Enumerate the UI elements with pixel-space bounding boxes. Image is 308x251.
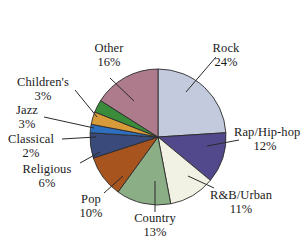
slice-label-religious-name: Religious bbox=[15, 163, 79, 177]
slice-label-religious-percent: 6% bbox=[15, 177, 79, 191]
slice-label-childrens-name: Children's bbox=[12, 76, 74, 90]
slice-label-rap-hip-hop-name: Rap/Hip-hop bbox=[234, 126, 308, 140]
leader-line-childrens bbox=[75, 90, 97, 117]
slice-label-other: Other 16% bbox=[84, 42, 134, 69]
slice-label-rap-hip-hop-percent: 12% bbox=[234, 140, 296, 154]
slice-label-rnb-urban-name: R&B/Urban bbox=[203, 189, 279, 203]
pie-chart: Rock 24% Rap/Hip-hop 12% R&B/Urban 11% C… bbox=[0, 0, 308, 251]
slice-label-jazz-percent: 3% bbox=[10, 118, 44, 132]
slice-label-pop-name: Pop bbox=[72, 193, 110, 207]
slice-label-rock: Rock 24% bbox=[196, 42, 256, 69]
slice-label-rnb-urban: R&B/Urban 11% bbox=[203, 189, 279, 216]
slice-label-country-percent: 13% bbox=[125, 226, 185, 240]
slice-label-other-name: Other bbox=[84, 42, 134, 56]
slice-label-classical: Classical 2% bbox=[0, 133, 62, 160]
slice-label-country-name: Country bbox=[125, 212, 185, 226]
pie-slice-rock[interactable] bbox=[158, 69, 226, 137]
slice-label-jazz-name: Jazz bbox=[10, 104, 44, 118]
slice-label-other-percent: 16% bbox=[84, 56, 134, 70]
slice-label-classical-name: Classical bbox=[0, 133, 62, 147]
slice-label-religious: Religious 6% bbox=[15, 163, 79, 190]
slice-label-pop-percent: 10% bbox=[72, 207, 110, 221]
slice-label-country: Country 13% bbox=[125, 212, 185, 239]
slice-label-rock-percent: 24% bbox=[196, 56, 256, 70]
slice-label-pop: Pop 10% bbox=[72, 193, 110, 220]
slice-label-rap-hip-hop: Rap/Hip-hop 12% bbox=[234, 126, 308, 153]
slice-label-childrens: Children's 3% bbox=[12, 76, 74, 103]
slice-label-rock-name: Rock bbox=[196, 42, 256, 56]
slice-label-childrens-percent: 3% bbox=[12, 90, 74, 104]
slice-label-rnb-urban-percent: 11% bbox=[203, 203, 279, 217]
leader-line-jazz bbox=[44, 117, 94, 128]
slice-label-classical-percent: 2% bbox=[0, 147, 62, 161]
slice-label-jazz: Jazz 3% bbox=[10, 104, 44, 131]
